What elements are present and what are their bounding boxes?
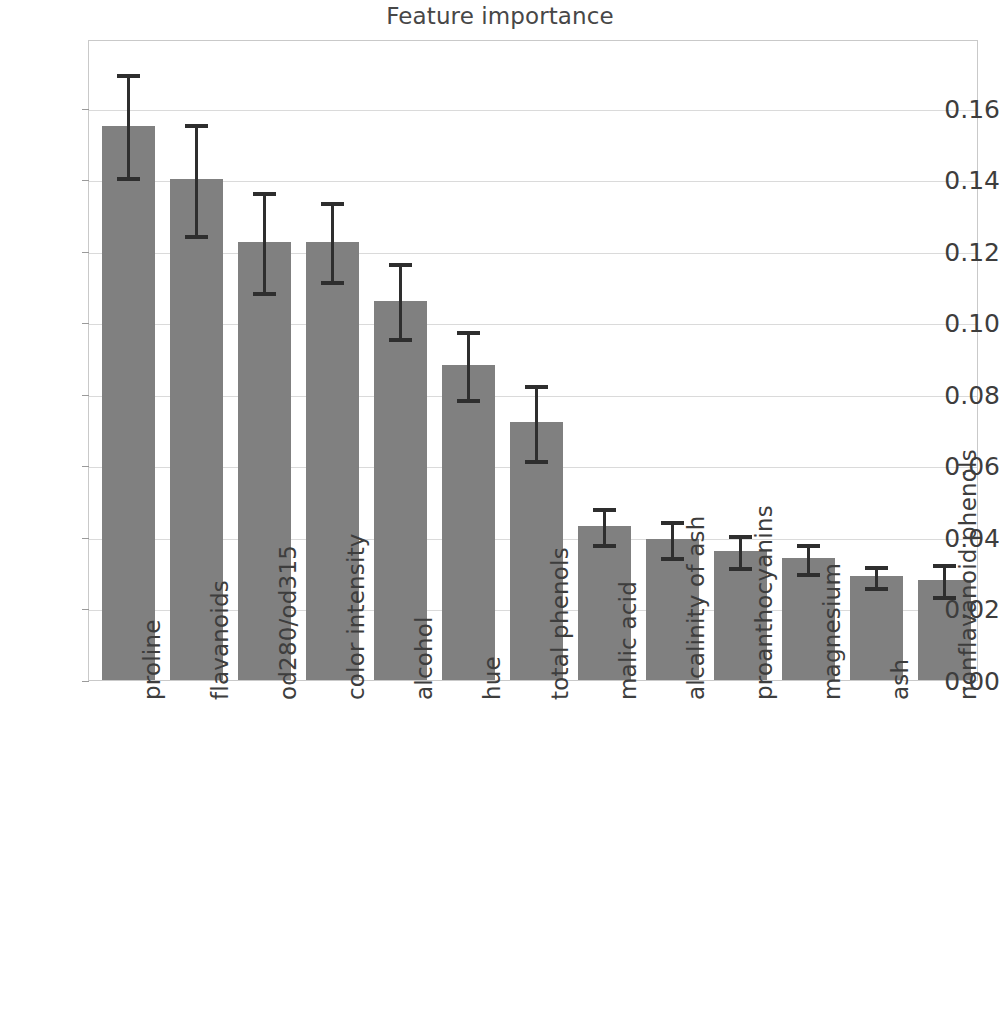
y-tick-mark	[82, 323, 89, 324]
y-tick-label: 0.14	[922, 166, 1000, 195]
x-tick-label: nonflavanoid phenols	[955, 449, 981, 700]
x-tick-label: alcalinity of ash	[683, 516, 709, 700]
x-tick-label: malic acid	[615, 581, 641, 700]
y-tick-label: 0.12	[922, 237, 1000, 266]
x-tick-label: ash	[887, 659, 913, 700]
x-tick-label: color intensity	[343, 533, 369, 700]
feature-importance-figure: Feature importance 0.000.020.040.060.080…	[0, 0, 1000, 1012]
y-tick-label: 0.08	[922, 380, 1000, 409]
x-tick-label: hue	[479, 656, 505, 700]
y-tick-mark	[82, 609, 89, 610]
y-tick-label: 0.16	[922, 94, 1000, 123]
y-tick-mark	[82, 395, 89, 396]
x-tick-label: od280/od315	[275, 545, 301, 700]
y-axis: 0.000.020.040.060.080.100.120.140.16	[0, 0, 1000, 1012]
x-tick-label: alcohol	[411, 616, 437, 700]
y-tick-mark	[82, 252, 89, 253]
y-tick-mark	[82, 109, 89, 110]
x-tick-label: proanthocyanins	[751, 505, 777, 700]
y-tick-mark	[82, 180, 89, 181]
y-tick-mark	[82, 466, 89, 467]
x-tick-label: flavanoids	[207, 580, 233, 700]
x-tick-label: total phenols	[547, 547, 573, 700]
y-tick-mark	[82, 538, 89, 539]
x-tick-label: magnesium	[819, 563, 845, 700]
y-tick-mark	[82, 681, 89, 682]
x-tick-label: proline	[139, 619, 165, 700]
y-tick-label: 0.10	[922, 309, 1000, 338]
